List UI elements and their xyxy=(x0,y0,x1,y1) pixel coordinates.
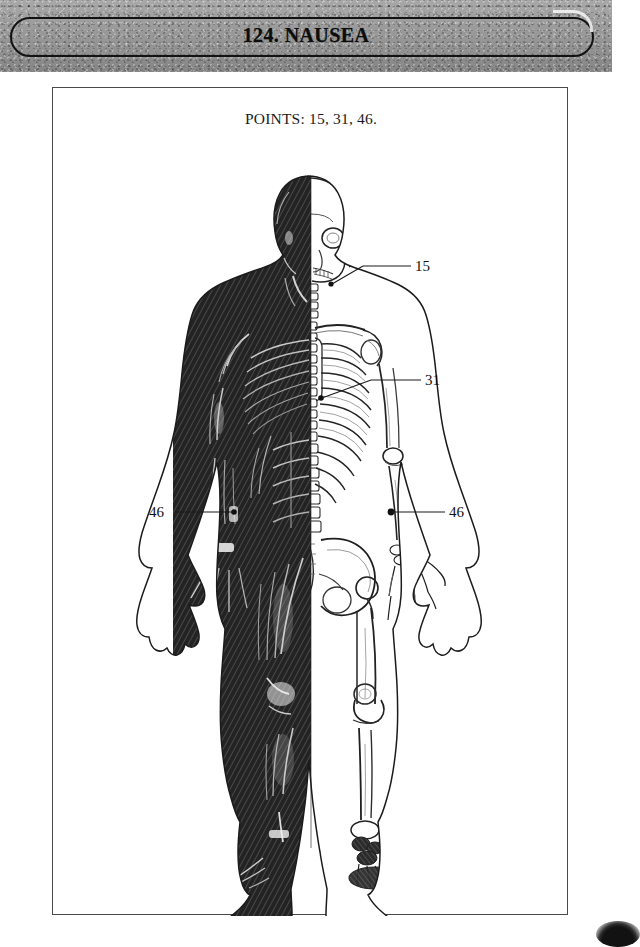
callout-label-46-right: 46 xyxy=(449,505,464,520)
anatomy-figure xyxy=(53,88,569,916)
callout-label-46-left: 46 xyxy=(149,505,164,520)
page-corner-mark xyxy=(596,921,640,947)
anatomy-figure-svg xyxy=(53,88,569,916)
chapter-title: 124. NAUSEA xyxy=(0,24,612,47)
skeleton-half xyxy=(303,168,461,916)
page-content-frame: POINTS: 15, 31, 46. xyxy=(52,87,568,915)
chapter-header-banner: 124. NAUSEA xyxy=(0,0,612,72)
musculature-half xyxy=(173,168,313,916)
callout-label-31: 31 xyxy=(425,373,440,388)
callout-label-15: 15 xyxy=(415,259,430,274)
